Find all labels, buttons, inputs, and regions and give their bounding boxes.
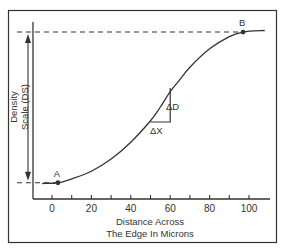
x-axis-label-line1: Distance Across bbox=[116, 216, 184, 227]
x-tick-label: 20 bbox=[86, 203, 98, 214]
y-axis-label-line1: Density bbox=[8, 91, 19, 123]
x-tick-label: 60 bbox=[165, 203, 177, 214]
x-tick-label: 0 bbox=[49, 203, 55, 214]
x-tick-label: 100 bbox=[241, 203, 258, 214]
y-axis-label: Density Scale (DS) bbox=[8, 84, 30, 130]
delta-d-label: ΔD bbox=[166, 101, 179, 112]
arrow-down-head-icon bbox=[25, 172, 31, 181]
point-b bbox=[241, 30, 246, 35]
density-curve bbox=[42, 31, 265, 184]
x-axis-label-line2: The Edge In Microns bbox=[106, 228, 194, 239]
x-tick-label: 80 bbox=[204, 203, 216, 214]
point-label-b: B bbox=[239, 17, 245, 28]
point-a bbox=[56, 180, 61, 185]
point-label-a: A bbox=[54, 168, 61, 179]
edge-density-diagram: 020406080100 AB Density Scale (DS) Dista… bbox=[0, 0, 286, 251]
y-axis-label-line2: Scale (DS) bbox=[19, 84, 30, 130]
delta-x-label: ΔX bbox=[150, 125, 163, 136]
arrow-up-head-icon bbox=[25, 34, 31, 43]
x-tick-label: 40 bbox=[125, 203, 137, 214]
